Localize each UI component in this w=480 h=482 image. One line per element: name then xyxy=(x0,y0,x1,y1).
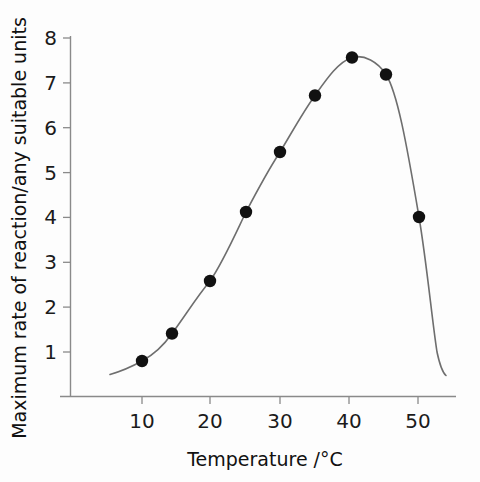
y-axis-title: Maximum rate of reaction/any suitable un… xyxy=(8,17,30,439)
data-point-30c xyxy=(274,146,286,158)
x-axis-ticks xyxy=(142,397,418,405)
y-tick-label-1: 1 xyxy=(44,340,57,364)
y-tick-label-2: 2 xyxy=(44,295,57,319)
y-tick-label-5: 5 xyxy=(44,161,57,185)
data-point-15c xyxy=(166,327,178,339)
y-axis-tick-labels: 8 7 6 5 4 3 2 1 xyxy=(44,26,57,364)
rate-curve xyxy=(110,57,446,376)
data-point-49c xyxy=(413,211,425,223)
x-axis-tick-labels: 10 20 30 40 50 xyxy=(129,409,430,433)
rate-vs-temperature-chart: 8 7 6 5 4 3 2 1 10 20 30 40 50 xyxy=(0,0,480,482)
data-point-35c xyxy=(309,89,321,101)
x-axis-title: Temperature /°C xyxy=(186,448,343,470)
y-tick-label-6: 6 xyxy=(44,116,57,140)
data-point-markers xyxy=(136,51,425,367)
data-point-10c xyxy=(136,355,148,367)
y-tick-label-7: 7 xyxy=(44,71,57,95)
chart-page: 8 7 6 5 4 3 2 1 10 20 30 40 50 xyxy=(0,0,480,482)
y-axis-ticks xyxy=(63,38,71,352)
x-tick-label-20: 20 xyxy=(197,409,222,433)
y-tick-label-4: 4 xyxy=(44,205,57,229)
data-point-40c xyxy=(346,51,358,63)
data-point-45c xyxy=(380,68,392,80)
data-point-25c xyxy=(240,206,252,218)
y-tick-label-3: 3 xyxy=(44,250,57,274)
data-point-20c xyxy=(204,275,216,287)
x-tick-label-30: 30 xyxy=(267,409,292,433)
x-tick-label-10: 10 xyxy=(129,409,154,433)
y-tick-label-8: 8 xyxy=(44,26,57,50)
x-tick-label-50: 50 xyxy=(405,409,430,433)
x-tick-label-40: 40 xyxy=(336,409,361,433)
